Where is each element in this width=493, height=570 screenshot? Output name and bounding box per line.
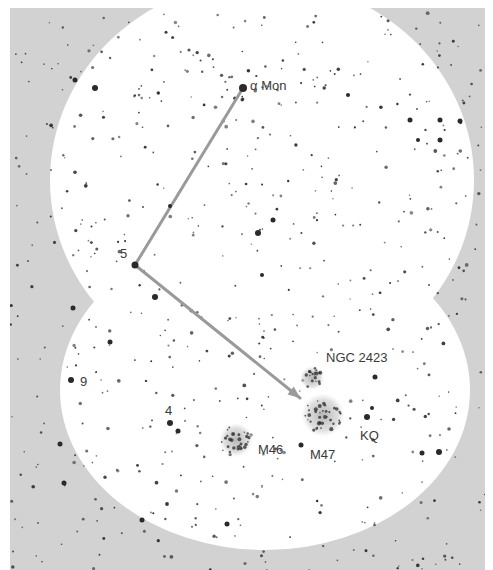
- faint-star: [199, 432, 202, 435]
- bright-star: [62, 481, 67, 486]
- faint-star: [164, 518, 167, 521]
- faint-star: [455, 412, 457, 414]
- faint-star: [195, 444, 198, 447]
- faint-star: [158, 288, 160, 290]
- faint-star: [204, 204, 206, 206]
- faint-star: [12, 551, 14, 553]
- faint-star: [151, 419, 153, 421]
- faint-star: [157, 91, 161, 95]
- faint-star: [262, 228, 264, 230]
- faint-star: [62, 89, 64, 91]
- faint-star: [391, 318, 394, 321]
- faint-star: [462, 102, 465, 105]
- faint-star: [283, 378, 285, 380]
- faint-star: [14, 518, 16, 520]
- faint-star: [333, 316, 335, 318]
- faint-star: [424, 415, 427, 418]
- faint-star: [222, 162, 225, 165]
- faint-star: [469, 95, 471, 97]
- faint-star: [349, 399, 353, 403]
- faint-star: [332, 198, 334, 200]
- faint-star: [152, 512, 154, 514]
- faint-star: [322, 545, 324, 547]
- faint-star: [443, 237, 445, 239]
- faint-star: [455, 406, 457, 408]
- faint-star: [282, 59, 284, 61]
- faint-star: [180, 474, 182, 476]
- faint-star: [134, 359, 136, 361]
- faint-star: [459, 149, 463, 153]
- faint-star: [88, 319, 90, 321]
- faint-star: [411, 451, 414, 454]
- faint-star: [149, 97, 151, 99]
- faint-star: [201, 70, 204, 73]
- faint-star: [128, 199, 131, 202]
- faint-star: [46, 123, 48, 125]
- faint-star: [430, 326, 432, 328]
- bright-star: [260, 273, 264, 277]
- faint-star: [439, 434, 441, 436]
- cluster-m47: [301, 393, 345, 437]
- bright-star: [373, 375, 378, 380]
- faint-star: [361, 521, 363, 523]
- faint-star: [61, 207, 63, 209]
- faint-star: [349, 417, 351, 419]
- faint-star: [163, 555, 166, 558]
- faint-star: [457, 153, 459, 155]
- faint-star: [61, 543, 63, 545]
- faint-star: [338, 331, 340, 333]
- faint-star: [480, 126, 482, 128]
- faint-star: [228, 76, 230, 78]
- faint-star: [409, 198, 411, 200]
- faint-star: [100, 50, 103, 53]
- faint-star: [102, 17, 104, 19]
- faint-star: [233, 497, 235, 499]
- faint-star: [88, 240, 90, 242]
- faint-star: [228, 317, 231, 320]
- faint-star: [103, 476, 106, 479]
- faint-star: [242, 384, 246, 388]
- faint-star: [421, 266, 423, 268]
- faint-star: [462, 269, 465, 272]
- faint-star: [379, 106, 383, 110]
- faint-star: [294, 143, 297, 146]
- faint-star: [195, 524, 197, 526]
- faint-star: [50, 215, 52, 217]
- faint-star: [306, 25, 309, 28]
- faint-star: [241, 51, 243, 53]
- faint-star: [295, 102, 297, 104]
- faint-star: [84, 184, 88, 188]
- faint-star: [349, 298, 351, 300]
- faint-star: [69, 76, 72, 79]
- faint-star: [477, 144, 479, 146]
- faint-star: [21, 61, 23, 63]
- faint-star: [261, 184, 263, 186]
- faint-star: [395, 540, 397, 542]
- faint-star: [233, 27, 235, 29]
- faint-star: [414, 148, 416, 150]
- faint-star: [352, 224, 354, 226]
- faint-star: [370, 269, 372, 271]
- faint-star: [244, 20, 247, 23]
- faint-star: [427, 517, 430, 520]
- faint-star: [246, 417, 248, 419]
- faint-star: [362, 399, 364, 401]
- faint-star: [35, 466, 37, 468]
- faint-star: [28, 81, 30, 83]
- faint-star: [413, 408, 416, 411]
- faint-star: [95, 247, 98, 250]
- faint-star: [78, 250, 80, 252]
- faint-star: [370, 308, 372, 310]
- alpha-mon: [239, 84, 247, 92]
- faint-star: [212, 58, 214, 60]
- faint-star: [145, 380, 147, 382]
- faint-star: [312, 79, 314, 81]
- faint-star: [221, 96, 223, 98]
- faint-star: [154, 254, 156, 256]
- faint-star: [392, 348, 394, 350]
- faint-star: [437, 292, 439, 294]
- bright-star: [108, 340, 113, 345]
- faint-star: [442, 342, 446, 346]
- faint-star: [172, 366, 174, 368]
- faint-star: [235, 317, 237, 319]
